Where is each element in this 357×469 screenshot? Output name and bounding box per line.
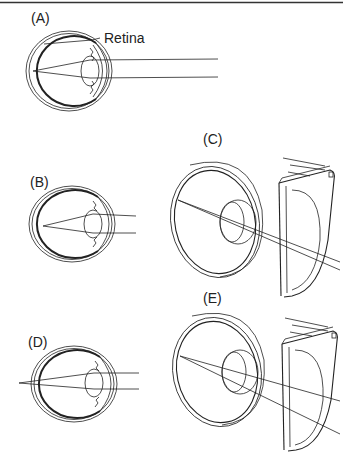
eye-diagram-figure: (A) Retina (B) bbox=[0, 0, 357, 469]
panel-d: (D) bbox=[19, 334, 139, 422]
panel-c: (C) bbox=[160, 131, 340, 297]
panel-e-label: (E) bbox=[203, 290, 222, 306]
panel-a-label: (A) bbox=[31, 10, 50, 26]
panel-b-label: (B) bbox=[30, 174, 49, 190]
panel-c-label: (C) bbox=[203, 131, 222, 147]
panel-a: (A) Retina bbox=[26, 10, 218, 111]
panel-e: (E) bbox=[163, 290, 340, 451]
panel-d-label: (D) bbox=[28, 334, 47, 350]
panel-b: (B) bbox=[29, 174, 136, 262]
retina-label: Retina bbox=[104, 30, 145, 46]
